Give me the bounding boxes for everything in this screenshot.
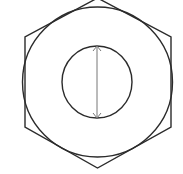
diagram-svg	[0, 0, 183, 174]
hex-nut-diagram	[0, 0, 183, 174]
hexagon-outline	[25, 0, 171, 168]
